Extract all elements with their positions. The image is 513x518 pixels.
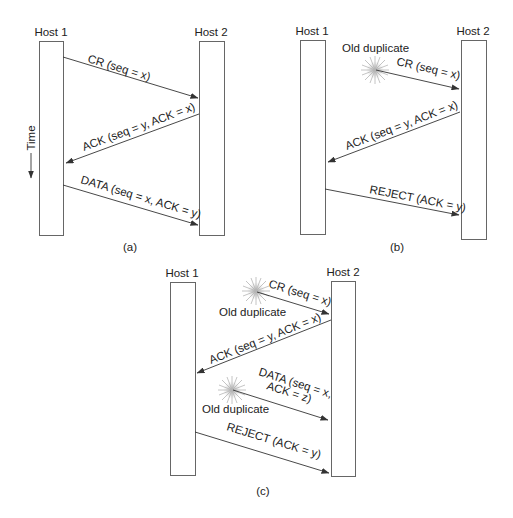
ack-arrow [197, 320, 331, 373]
ack-label: ACK (seq = y, ACK = x) [81, 100, 197, 153]
host1-timeline [171, 283, 196, 476]
panel-b: Host 1 Host 2 Old duplicate CR (seq = x)… [295, 25, 489, 253]
time-label: Time [25, 125, 37, 150]
host1-label: Host 1 [165, 267, 198, 279]
ack-label: ACK (seq = y, ACK = x) [343, 98, 459, 151]
old-duplicate-burst-icon-2 [218, 376, 246, 404]
old-duplicate-burst-icon-1 [242, 277, 270, 305]
caption-a: (a) [123, 241, 137, 253]
cr-label: CR (seq = x) [267, 277, 333, 307]
host1-label: Host 1 [34, 26, 67, 38]
host2-timeline [200, 42, 225, 236]
cr-label: CR (seq = x) [86, 52, 152, 82]
host1-timeline [40, 42, 64, 236]
reject-label: REJECT (ACK = y) [225, 420, 322, 460]
ack-label: ACK (seq = y, ACK = x) [207, 311, 322, 366]
host1-label: Host 1 [295, 25, 328, 37]
panel-a: Host 1 Host 2 Time CR (seq = x) ACK (seq… [25, 26, 228, 253]
ack-arrow [328, 112, 460, 162]
old-duplicate-label-1: Old duplicate [219, 306, 286, 318]
caption-b: (b) [390, 241, 404, 253]
three-way-handshake-diagram: Host 1 Host 2 Time CR (seq = x) ACK (seq… [0, 0, 513, 518]
cr-arrow [63, 57, 198, 98]
host2-timeline [332, 282, 356, 477]
time-axis: Time [25, 125, 37, 178]
old-duplicate-label-2: Old duplicate [202, 403, 269, 415]
host2-label: Host 2 [194, 26, 227, 38]
panel-c: Host 1 Host 2 Old duplicate CR (seq = x)… [165, 266, 359, 497]
host2-label: Host 2 [456, 25, 489, 37]
old-duplicate-label: Old duplicate [342, 42, 409, 54]
caption-c: (c) [256, 485, 270, 497]
ack-arrow [66, 114, 199, 163]
reject-label: REJECT (ACK = y) [369, 183, 468, 213]
old-duplicate-burst-icon [361, 56, 389, 84]
cr-label: CR (seq = x) [396, 55, 462, 81]
host1-timeline [301, 41, 326, 235]
host2-label: Host 2 [326, 266, 359, 278]
data-label: DATA (seq = x, ACK = y) [79, 173, 202, 220]
